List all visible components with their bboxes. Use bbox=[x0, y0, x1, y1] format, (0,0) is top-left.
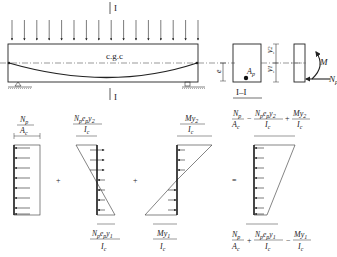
result-bottom-term3: My1 bbox=[293, 230, 307, 240]
result-bottom-term1: Np bbox=[231, 230, 240, 240]
moment-label: M bbox=[319, 57, 328, 67]
d3-top-numerator: My2 bbox=[184, 114, 198, 124]
cgc-label: c.g.c bbox=[106, 51, 123, 61]
result-top-sign2: + bbox=[285, 114, 290, 123]
y1-label: y1 bbox=[265, 65, 274, 73]
tendon-anchor-left bbox=[8, 62, 11, 65]
section-cut-bottom-label: I bbox=[114, 92, 117, 102]
section-cut-bottom: I bbox=[110, 88, 117, 102]
result-top-term3: My2 bbox=[292, 109, 306, 119]
result-top-term1-den: Ac bbox=[231, 120, 240, 130]
axial-label: Np bbox=[328, 74, 337, 85]
y2-label: y2 bbox=[265, 46, 274, 54]
pin-support bbox=[8, 82, 32, 89]
d3-top-denominator: Ic bbox=[187, 125, 194, 135]
result-top-term3-den: Ic bbox=[296, 120, 303, 130]
section-cut-top-label: I bbox=[114, 3, 117, 13]
section-label: I–I bbox=[236, 87, 247, 97]
equals-operator: = bbox=[232, 176, 237, 185]
ep-dimension: e bbox=[214, 63, 226, 81]
result-bottom-term1-den: Ac bbox=[231, 242, 240, 252]
stress-diagram-combined: Np Ac − Npepy2 Ic + My2 Ic Np Ac + Npepy… bbox=[231, 109, 311, 252]
d3-bottom-denominator: Ic bbox=[159, 242, 166, 252]
ep-label: e bbox=[214, 69, 223, 73]
stress-diagram-axial: Np Ac bbox=[14, 115, 40, 215]
tendon-dot bbox=[244, 76, 248, 80]
prestressed-beam-stress-diagram: I I c.g.c e Ap I–I y2 y1 bbox=[0, 0, 337, 257]
d2-bottom-numerator: Npepy1 bbox=[91, 229, 113, 239]
ap-label: Ap bbox=[246, 67, 255, 77]
result-bottom-term2-den: Ic bbox=[264, 242, 271, 252]
d2-bottom-denominator: Ic bbox=[100, 242, 107, 252]
distributed-load bbox=[12, 20, 198, 40]
stress-diagram-external-moment: My2 Ic My1 Ic bbox=[145, 114, 212, 252]
tendon-anchor-right bbox=[196, 62, 199, 65]
free-body-element: M Np bbox=[291, 44, 337, 85]
d1-denominator: Ac bbox=[19, 126, 28, 136]
result-bottom-term3-den: Ic bbox=[297, 242, 304, 252]
plus-operator-1: + bbox=[56, 176, 61, 185]
result-bottom-term2: Npepy1 bbox=[254, 230, 276, 240]
d3-bottom-numerator: My1 bbox=[156, 229, 170, 239]
d2-top-denominator: Ic bbox=[83, 125, 90, 135]
stress-diagram-prestress-moment: Npepy2 Ic Npepy1 Ic bbox=[73, 114, 120, 252]
result-top-sign1: − bbox=[247, 114, 252, 123]
tendon-profile bbox=[9, 63, 197, 78]
result-bottom-sign2: − bbox=[286, 236, 291, 245]
d1-numerator: Np bbox=[19, 115, 28, 125]
d2-top-numerator: Npepy2 bbox=[73, 114, 95, 124]
result-bottom-sign1: + bbox=[247, 236, 252, 245]
result-top-term1: Np bbox=[232, 109, 241, 119]
result-top-term2: Npepy2 bbox=[254, 109, 276, 119]
plus-operator-2: + bbox=[133, 176, 138, 185]
roller-support bbox=[182, 82, 205, 89]
moment-arrow bbox=[312, 52, 320, 79]
result-top-term2-den: Ic bbox=[264, 120, 271, 130]
section-cut-top: I bbox=[110, 2, 117, 14]
